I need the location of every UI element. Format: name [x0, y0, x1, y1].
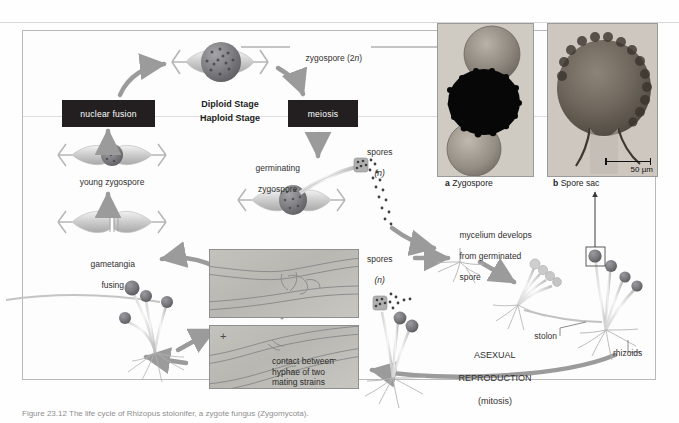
figure-caption: Figure 23.12 The life cycle of Rhizopus … [22, 409, 656, 423]
spores-lower-line2: (n) [375, 275, 385, 285]
zygospore-2n-label: zygospore (2n) [296, 42, 362, 74]
figure-canvas: nuclear fusion meiosis Diploid Stage Hap… [0, 0, 679, 423]
germinating-line2: zygospore [258, 184, 297, 194]
gametangia-line2: fusing [101, 280, 124, 290]
spores-lower-line1: spores [367, 254, 393, 264]
germinating-zygospore-label: germinating zygospore [228, 152, 318, 205]
mycelium-line3: spore [459, 272, 480, 282]
zygospore-2n-close: ) [359, 53, 362, 63]
photo-inset-spore-sac[interactable]: 50 µm [547, 23, 658, 177]
spores-upper-label: spores (n) [345, 136, 405, 189]
mycelium-line2: from germinated [459, 251, 521, 261]
hyphae-line3: mating strains [272, 377, 325, 387]
photo-inset-zygospore[interactable] [437, 23, 534, 177]
micrograph-hyphae-contact[interactable]: + – contact between hyphae of two mating… [209, 325, 359, 389]
germinating-line1: germinating [256, 163, 300, 173]
photo-a-title: Zygospore [452, 178, 493, 188]
haploid-stage-label: Haploid Stage [170, 113, 290, 123]
young-zygospore-label: young zygospore [62, 177, 162, 188]
diploid-stage-label: Diploid Stage [170, 99, 290, 109]
photo-a-caption: a Zygospore [445, 178, 493, 188]
asexual-reproduction-label: ASEXUAL REPRODUCTION (mitosis) [435, 338, 545, 419]
photo-a-letter: a [445, 178, 450, 188]
mycelium-develops-label: mycelium develops from germinated spore [450, 219, 532, 293]
mycelium-line1: mycelium develops [459, 230, 531, 240]
hyphae-contact-caption: contact between hyphae of two mating str… [272, 356, 334, 388]
asexual-line3: (mitosis) [478, 396, 512, 406]
meiosis-box[interactable]: meiosis [288, 100, 358, 127]
scale-bar-label: 50 µm [631, 165, 653, 174]
nuclear-fusion-box[interactable]: nuclear fusion [62, 100, 155, 127]
photo-b-caption: b Spore sac [553, 178, 599, 188]
hyphae-line2: hyphae of two [272, 367, 325, 377]
rhizoids-label: rhizoids [613, 348, 642, 359]
photo-b-letter: b [553, 178, 558, 188]
asexual-line1: ASEXUAL [474, 350, 516, 360]
gametangia-fusing-label: gametangia fusing [58, 248, 158, 301]
scale-bar [605, 161, 651, 163]
hyphae-line1: contact between [272, 356, 334, 366]
zygospore-2n-text: zygospore (2 [305, 53, 354, 63]
gametangia-line1: gametangia [91, 259, 135, 269]
photo-b-title: Spore sac [561, 178, 600, 188]
micrograph-gametangia-contact[interactable] [209, 249, 359, 318]
spores-upper-line2: (n) [375, 168, 385, 178]
plus-strain-symbol: + [220, 330, 226, 342]
asexual-line2: REPRODUCTION [459, 373, 532, 383]
spores-upper-line1: spores [367, 147, 393, 157]
